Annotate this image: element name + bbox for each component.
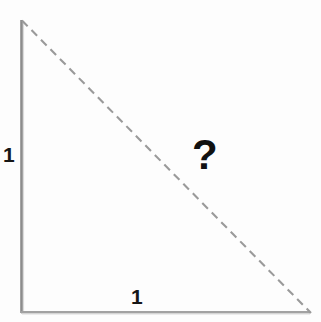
hypotenuse-question-mark-label: ? [192, 134, 218, 176]
horizontal-leg-label: 1 [131, 286, 143, 307]
diagram-canvas: 1 1 ? [0, 0, 321, 322]
right-triangle-figure [0, 0, 321, 322]
hypotenuse-dashed-line [22, 21, 311, 314]
vertical-leg-label: 1 [3, 144, 15, 165]
